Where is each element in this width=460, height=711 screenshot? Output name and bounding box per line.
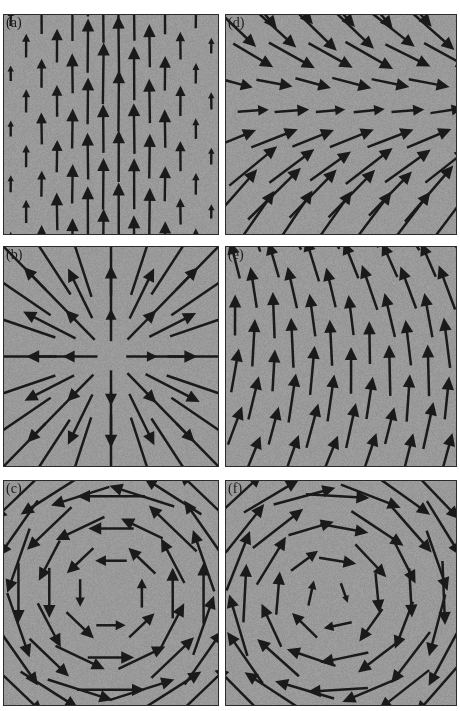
panel-f-vectors	[225, 480, 457, 706]
panel-f-label: (f)	[228, 481, 242, 497]
panel-c: (c)	[3, 480, 219, 706]
panel-b-vectors	[3, 246, 219, 467]
panel-a-label: (a)	[6, 15, 22, 31]
panel-f: (f)	[225, 480, 457, 706]
caption-trim-strip	[0, 0, 460, 14]
panel-d-vectors	[225, 14, 457, 235]
panel-e: (e)	[225, 246, 457, 467]
panel-c-vectors	[3, 480, 219, 706]
panel-a-vectors	[3, 14, 219, 235]
panel-d-label: (d)	[228, 15, 245, 31]
panel-a: (a)	[3, 14, 219, 235]
panel-c-label: (c)	[6, 481, 22, 497]
panel-e-label: (e)	[228, 247, 244, 263]
panel-b-label: (b)	[6, 247, 23, 263]
vector-field-figure: (a) (b) (c) (d) (e) (f)	[0, 0, 460, 711]
panel-b: (b)	[3, 246, 219, 467]
panel-e-vectors	[225, 246, 457, 467]
panel-d: (d)	[225, 14, 457, 235]
